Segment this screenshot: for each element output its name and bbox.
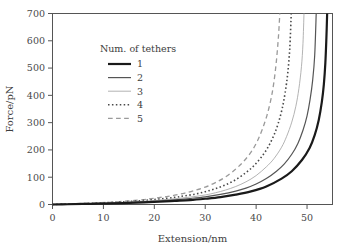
y-tick-label: 0 [39,199,45,210]
y-axis-tick-labels: 0100200300400500600700 [27,8,45,210]
x-tick-label: 40 [250,212,262,223]
y-tick-label: 200 [27,144,45,155]
legend: Num. of tethers 12345 [100,43,176,124]
chart-canvas: 01020304050 0100200300400500600700 Exten… [0,0,350,252]
y-tick-label: 500 [27,62,45,73]
y-axis-ticks [48,14,53,205]
legend-entry-5: 5 [108,113,143,124]
legend-label-3: 3 [137,86,143,97]
x-axis-title: Extension/nm [158,233,228,244]
legend-label-4: 4 [137,99,143,110]
legend-label-5: 5 [137,113,143,124]
curve-series-1 [53,14,328,205]
legend-label-2: 2 [137,72,143,83]
x-tick-label: 10 [97,212,109,223]
y-tick-label: 400 [27,90,45,101]
x-axis-tick-labels: 01020304050 [49,212,313,223]
curve-series-2 [53,14,317,205]
y-tick-label: 700 [27,8,45,19]
data-curves [53,14,328,205]
x-tick-label: 30 [199,212,211,223]
legend-title: Num. of tethers [100,43,176,54]
legend-entry-3: 3 [108,86,143,97]
y-tick-label: 300 [27,117,45,128]
y-tick-label: 600 [27,35,45,46]
x-tick-label: 20 [148,212,160,223]
curve-series-3 [53,14,304,205]
legend-entry-1: 1 [108,58,143,69]
legend-entry-4: 4 [108,99,143,110]
force-extension-chart-figure: 01020304050 0100200300400500600700 Exten… [0,0,350,252]
legend-label-1: 1 [137,58,143,69]
x-tick-label: 0 [49,212,55,223]
y-axis-title: Force/pN [4,85,15,132]
legend-entries: 12345 [108,58,143,123]
x-tick-label: 50 [301,212,313,223]
y-tick-label: 100 [27,172,45,183]
x-axis-ticks [53,205,308,210]
legend-entry-2: 2 [108,72,143,83]
